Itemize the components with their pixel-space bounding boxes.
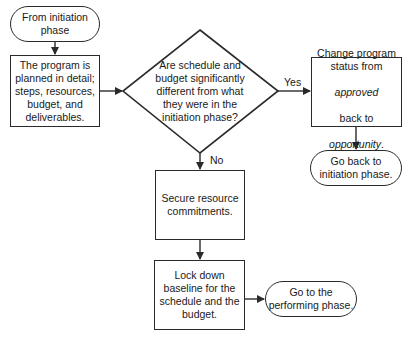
change-period: . (381, 138, 384, 150)
change-line1: Change program status from (317, 47, 396, 72)
change-approved: approved (335, 86, 379, 98)
perform-text: Go to the performing phase. (269, 286, 354, 312)
plan-process-box: The program is planned in detail; steps,… (10, 55, 100, 127)
change-text: Change program status from approved back… (317, 34, 396, 151)
plan-text: The program is planned in detail; steps,… (15, 59, 95, 124)
goback-text: Go back to initiation phase. (320, 155, 393, 181)
go-back-terminal: Go back to initiation phase. (310, 150, 402, 186)
change-opportunity: opportunity (329, 138, 381, 150)
change-line3: back to (340, 112, 374, 124)
change-status-box: Change program status from approved back… (311, 57, 402, 127)
secure-text: Secure resource commitments. (161, 192, 238, 218)
start-text: From initiation phase (22, 11, 88, 37)
decision-text: Are schedule and budget significantly di… (140, 59, 260, 124)
yes-label: Yes (284, 76, 301, 88)
secure-commitments-box: Secure resource commitments. (155, 170, 245, 240)
lock-text: Lock down baseline for the schedule and … (160, 269, 240, 321)
lock-baseline-box: Lock down baseline for the schedule and … (154, 260, 245, 330)
start-terminal: From initiation phase (10, 6, 100, 42)
no-label: No (210, 154, 223, 166)
performing-phase-terminal: Go to the performing phase. (265, 281, 357, 317)
